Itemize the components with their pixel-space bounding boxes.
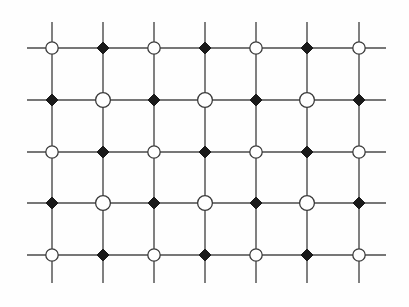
open-circle-site-r1-c1	[96, 93, 111, 108]
open-circle-site-r2-c4	[250, 146, 262, 158]
open-circle-site-r4-c0	[46, 249, 58, 261]
open-circle-site-r3-c5	[300, 196, 315, 211]
open-circle-site-r3-c1	[96, 196, 111, 211]
open-circle-site-r4-c6	[353, 249, 365, 261]
lattice-figure	[0, 0, 409, 307]
open-circle-site-r1-c3	[198, 93, 213, 108]
open-circle-site-r1-c5	[300, 93, 315, 108]
open-circle-site-r0-c2	[148, 42, 160, 54]
open-circle-site-r0-c4	[250, 42, 262, 54]
open-circle-site-r2-c2	[148, 146, 160, 158]
lattice-canvas	[0, 0, 409, 307]
open-circle-site-r0-c6	[353, 42, 365, 54]
open-circle-site-r4-c2	[148, 249, 160, 261]
open-circle-site-r2-c6	[353, 146, 365, 158]
open-circle-site-r2-c0	[46, 146, 58, 158]
open-circle-site-r3-c3	[198, 196, 213, 211]
open-circle-site-r4-c4	[250, 249, 262, 261]
open-circle-site-r0-c0	[46, 42, 58, 54]
